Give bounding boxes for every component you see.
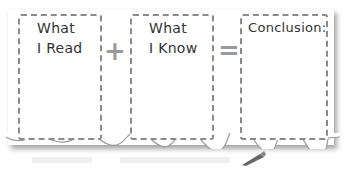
what-i-know-label-line2: I Know xyxy=(149,38,197,58)
what-i-read-label-line2: I Read xyxy=(37,38,83,58)
equals-icon: = xyxy=(218,37,240,63)
faint-background-text xyxy=(32,157,92,163)
plus-icon: + xyxy=(104,38,126,64)
pencil-icon xyxy=(240,150,266,166)
what-i-read-label-line1: What xyxy=(37,18,75,38)
what-i-know-box: What I Know xyxy=(130,14,214,140)
what-i-know-label-line1: What xyxy=(149,18,187,38)
conclusion-box: Conclusion: xyxy=(240,14,328,140)
conclusion-label: Conclusion: xyxy=(248,18,327,38)
what-i-read-box: What I Read xyxy=(18,14,102,140)
faint-background-text xyxy=(120,157,230,163)
